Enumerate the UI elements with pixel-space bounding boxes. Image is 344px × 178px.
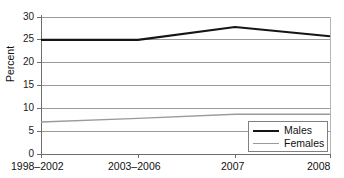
gridline-30 xyxy=(41,17,330,18)
legend-swatch-females-icon xyxy=(253,143,279,144)
gridline-25 xyxy=(41,39,330,40)
legend-label-males: Males xyxy=(284,124,312,137)
y-tick-label-25: 25 xyxy=(14,34,34,44)
y-tick-label-0: 0 xyxy=(14,149,34,159)
x-tick-label-2: 2003–2006 xyxy=(108,160,161,172)
plot-right-edge xyxy=(330,17,331,154)
y-tick-label-15: 15 xyxy=(14,80,34,90)
x-axis-line xyxy=(41,154,331,155)
legend-item-males: Males xyxy=(253,124,325,137)
y-tick-label-10: 10 xyxy=(14,103,34,113)
x-tick-label-3: 2007 xyxy=(221,160,244,172)
y-tick-label-5: 5 xyxy=(14,126,34,136)
y-tick-mark-15 xyxy=(37,85,41,86)
line-chart: 30 25 20 15 10 5 0 Percent 1998–2002 200… xyxy=(0,0,344,178)
legend-label-females: Females xyxy=(284,137,324,150)
x-tick-label-1: 1998–2002 xyxy=(11,160,64,172)
gridline-15 xyxy=(41,85,330,86)
legend-item-females: Females xyxy=(253,137,325,150)
gridline-20 xyxy=(41,62,330,63)
x-tick-mark-3 xyxy=(235,154,236,158)
y-tick-label-30: 30 xyxy=(14,12,34,22)
legend-swatch-males-icon xyxy=(253,130,279,132)
y-axis-title: Percent xyxy=(4,34,16,94)
x-tick-mark-2 xyxy=(138,154,139,158)
x-tick-label-4: 2008 xyxy=(307,160,330,172)
y-tick-mark-30 xyxy=(37,17,41,18)
legend: Males Females xyxy=(248,121,328,152)
y-tick-mark-5 xyxy=(37,131,41,132)
x-tick-mark-4 xyxy=(330,154,331,158)
y-tick-mark-10 xyxy=(37,108,41,109)
y-tick-mark-20 xyxy=(37,62,41,63)
gridline-10 xyxy=(41,108,330,109)
y-tick-label-20: 20 xyxy=(14,57,34,67)
y-tick-mark-25 xyxy=(37,39,41,40)
y-axis-line xyxy=(41,15,42,156)
x-tick-mark-1 xyxy=(41,154,42,158)
